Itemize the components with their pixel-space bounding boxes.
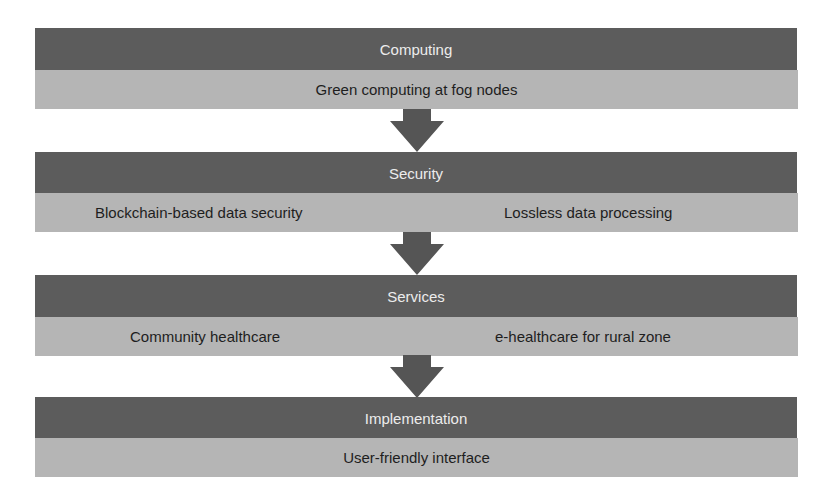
layer-services-header: Services — [35, 275, 797, 317]
layer-item: e-healthcare for rural zone — [495, 328, 671, 345]
layer-computing-items: Green computing at fog nodes — [35, 70, 798, 109]
layer-title: Computing — [380, 41, 453, 58]
layer-item: Green computing at fog nodes — [316, 81, 518, 98]
layer-item: Lossless data processing — [504, 204, 672, 221]
layer-implementation-header: Implementation — [35, 397, 797, 439]
layer-item: User-friendly interface — [343, 449, 490, 466]
layer-title: Security — [389, 165, 443, 182]
layer-implementation-items: User-friendly interface — [35, 438, 798, 477]
layer-title: Implementation — [365, 410, 468, 427]
down-arrow-icon — [390, 232, 444, 275]
layer-item: Community healthcare — [130, 328, 280, 345]
layer-title: Services — [387, 288, 445, 305]
layer-services-items: Community healthcare e-healthcare for ru… — [35, 317, 798, 356]
layer-item: Blockchain-based data security — [95, 204, 303, 221]
layer-security-items: Blockchain-based data security Lossless … — [35, 193, 798, 232]
down-arrow-icon — [390, 109, 444, 152]
layer-computing-header: Computing — [35, 28, 797, 70]
down-arrow-icon — [390, 355, 444, 398]
layer-security-header: Security — [35, 152, 797, 194]
